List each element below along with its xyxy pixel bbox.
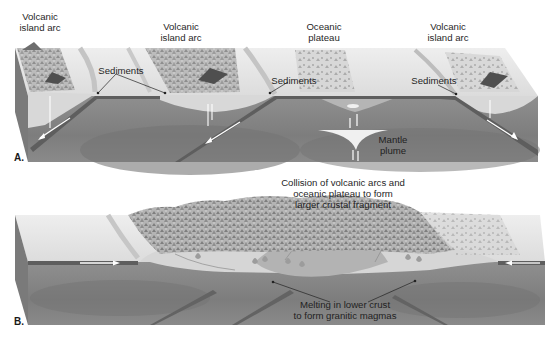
tectonic-diagram: Volcanic island arc Volcanic island arc … [0, 0, 559, 340]
panel-letter-a: A. [14, 152, 24, 163]
mantle-shadow-a2 [300, 128, 540, 172]
label-collision-2: oceanic plateau to form [293, 188, 393, 199]
plateau-base-glow [347, 104, 359, 108]
mantle-shadow-b2 [380, 282, 540, 318]
label-collision-3: larger crustal fragment [295, 199, 391, 210]
label-oceanic-plateau-2: plateau [308, 32, 339, 43]
mantle-shadow-b [30, 280, 210, 316]
label-volcanic-arc-right-2: island arc [427, 32, 468, 43]
label-sediments-mid: Sediments [271, 75, 317, 86]
mantle-shadow-a [80, 125, 300, 175]
label-volcanic-arc-mid-1: Volcanic [163, 21, 199, 32]
label-melting-2: to form granitic magmas [294, 310, 397, 321]
label-collision-1: Collision of volcanic arcs and [281, 177, 405, 188]
label-volcanic-arc-right-1: Volcanic [430, 21, 466, 32]
label-mantle-plume-2: plume [380, 145, 406, 156]
label-sediments-right: Sediments [411, 75, 457, 86]
label-sediments-left: Sediments [98, 65, 144, 76]
label-mantle-plume-1: Mantle [379, 134, 408, 145]
label-melting-1: Melting in lower crust [300, 299, 390, 310]
label-volcanic-arc-left-2: island arc [19, 22, 60, 33]
label-oceanic-plateau-1: Oceanic [306, 21, 341, 32]
volcano-icon [22, 42, 42, 50]
panel-b: Collision of volcanic arcs and oceanic p… [14, 177, 545, 327]
mountain-terrain [128, 195, 455, 254]
panel-a: Volcanic island arc Volcanic island arc … [14, 11, 540, 175]
label-volcanic-arc-mid-2: island arc [160, 32, 201, 43]
label-volcanic-arc-left-1: Volcanic [22, 11, 58, 22]
panel-letter-b: B. [14, 316, 24, 327]
